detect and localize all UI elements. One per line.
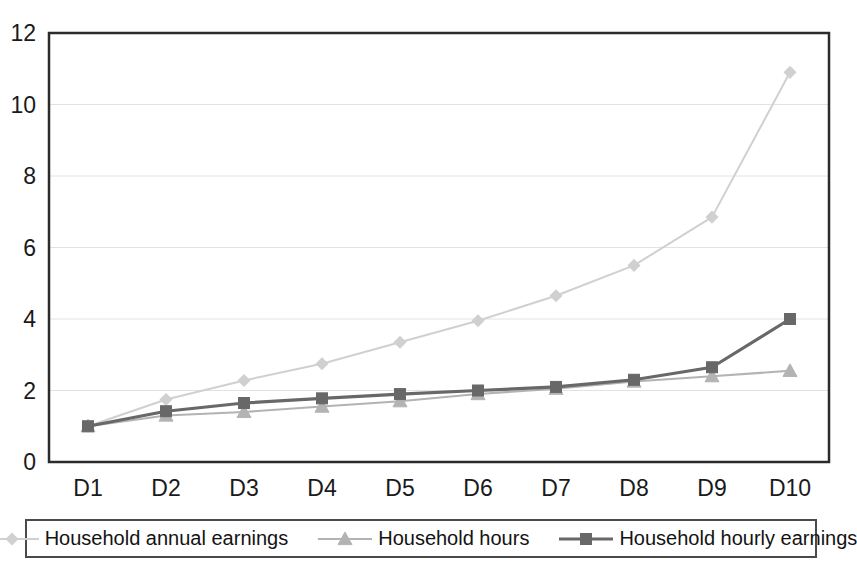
x-tick-label: D2 (151, 477, 180, 500)
legend-label: Household hourly earnings (619, 527, 857, 550)
x-tick-label: D6 (463, 477, 492, 500)
data-point-diamond (395, 337, 406, 348)
y-tick-label: 4 (0, 308, 36, 331)
data-point-square (317, 393, 328, 404)
data-point-triangle (783, 364, 797, 377)
data-point-square (629, 374, 640, 385)
x-tick-label: D7 (541, 477, 570, 500)
data-point-square (161, 406, 172, 417)
series-line (88, 371, 790, 426)
data-point-diamond (6, 533, 17, 544)
square-marker (559, 530, 613, 548)
data-point-square (785, 314, 796, 325)
x-tick-label: D4 (307, 477, 336, 500)
data-point-diamond (317, 358, 328, 369)
x-tick-label: D3 (229, 477, 258, 500)
data-point-square (473, 385, 484, 396)
data-point-square (551, 381, 562, 392)
data-point-diamond (551, 290, 562, 301)
legend-entry[interactable]: Household hours (318, 527, 529, 550)
legend-label: Household hours (378, 527, 529, 550)
data-point-square (395, 389, 406, 400)
series-line (88, 319, 790, 426)
data-point-square (239, 398, 250, 409)
data-point-diamond (473, 315, 484, 326)
x-tick-label: D9 (697, 477, 726, 500)
legend-entry[interactable]: Household annual earnings (0, 527, 288, 550)
y-tick-label: 0 (0, 451, 36, 474)
data-point-square (707, 362, 718, 373)
legend-label: Household annual earnings (45, 527, 289, 550)
y-tick-label: 12 (0, 22, 36, 45)
data-point-diamond (629, 260, 640, 271)
data-point-diamond (707, 212, 718, 223)
data-point-diamond (785, 67, 796, 78)
y-tick-label: 10 (0, 93, 36, 116)
legend-entry[interactable]: Household hourly earnings (559, 527, 857, 550)
x-tick-label: D5 (385, 477, 414, 500)
data-point-diamond (239, 375, 250, 386)
x-tick-label: D1 (73, 477, 102, 500)
y-tick-label: 2 (0, 379, 36, 402)
triangle-marker (318, 530, 372, 548)
chart-legend: Household annual earningsHousehold hours… (25, 519, 817, 558)
series-household-hours (81, 364, 797, 432)
data-point-square (83, 421, 94, 432)
y-tick-label: 8 (0, 165, 36, 188)
y-tick-label: 6 (0, 236, 36, 259)
x-tick-label: D10 (769, 477, 811, 500)
diamond-marker (0, 530, 39, 548)
data-point-diamond (161, 394, 172, 405)
x-tick-label: D8 (619, 477, 648, 500)
data-point-square (581, 533, 592, 544)
